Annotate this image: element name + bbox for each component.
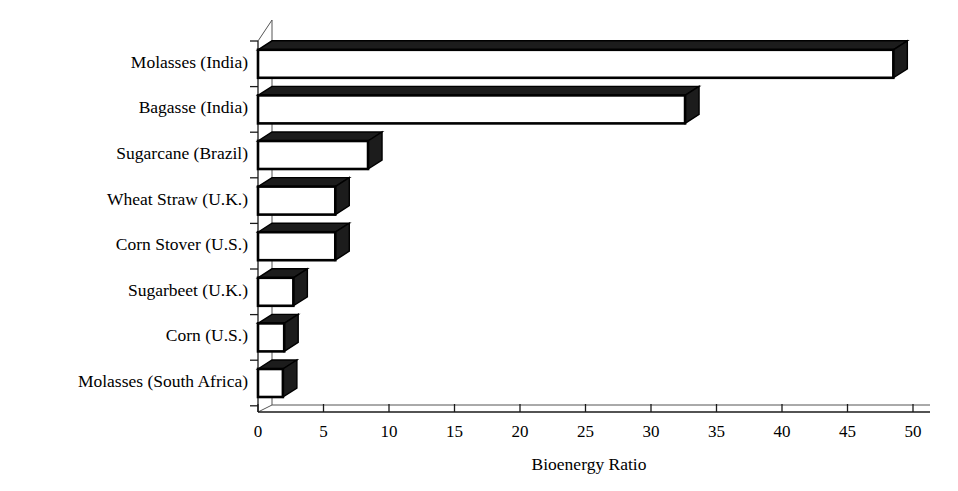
y-axis-category-label: Corn (U.S.) xyxy=(166,325,248,345)
x-axis-tick-label: 5 xyxy=(319,422,328,441)
x-axis-title: Bioenergy Ratio xyxy=(532,454,647,474)
bar-front-face xyxy=(258,141,368,169)
bar xyxy=(258,223,349,260)
y-axis-category-label: Wheat Straw (U.K.) xyxy=(107,189,248,209)
x-axis-tick-label: 35 xyxy=(708,422,725,441)
axis-depth-connector-top xyxy=(258,20,272,41)
chart-canvas: Molasses (India)Bagasse (India)Sugarcane… xyxy=(0,0,958,491)
bar-series xyxy=(258,41,907,397)
bar-top-face xyxy=(258,178,349,187)
bar-top-face xyxy=(258,223,349,232)
bar-front-face xyxy=(258,187,335,215)
y-axis-category-label: Sugarbeet (U.K.) xyxy=(128,280,248,300)
y-axis-category-labels: Molasses (India)Bagasse (India)Sugarcane… xyxy=(78,52,248,391)
x-axis-tick-label: 30 xyxy=(643,422,660,441)
y-axis-category-label: Corn Stover (U.S.) xyxy=(116,234,248,254)
bar xyxy=(258,178,349,215)
bar-front-face xyxy=(258,50,893,78)
x-axis-tick-label: 50 xyxy=(905,422,922,441)
x-axis-tick-label: 10 xyxy=(381,422,398,441)
x-axis-tick-label: 20 xyxy=(512,422,529,441)
bioenergy-ratio-bar-chart: Molasses (India)Bagasse (India)Sugarcane… xyxy=(0,0,958,491)
x-axis-tick-label: 45 xyxy=(839,422,856,441)
bar xyxy=(258,314,298,351)
bar xyxy=(258,360,297,397)
bar-front-face xyxy=(258,95,685,123)
bar xyxy=(258,269,307,306)
bar-top-face xyxy=(258,86,699,95)
axis-depth-connector-bottom xyxy=(258,405,272,412)
bar-front-face xyxy=(258,232,335,260)
y-axis-category-label: Sugarcane (Brazil) xyxy=(116,143,248,163)
x-axis-tick-label: 15 xyxy=(446,422,463,441)
bar xyxy=(258,41,907,78)
bar-top-face xyxy=(258,41,907,50)
bar-front-face xyxy=(258,323,284,351)
x-axis-tick-label: 0 xyxy=(254,422,263,441)
bar-top-face xyxy=(258,132,382,141)
y-axis-category-label: Bagasse (India) xyxy=(139,97,249,117)
bar-front-face xyxy=(258,278,293,306)
y-axis-category-label: Molasses (South Africa) xyxy=(78,371,248,391)
bar xyxy=(258,132,382,169)
x-axis-tick-label: 40 xyxy=(774,422,791,441)
x-axis-tick-labels: 05101520253035404550 xyxy=(254,422,922,441)
y-axis-category-label: Molasses (India) xyxy=(131,52,248,72)
bar-front-face xyxy=(258,369,283,397)
bar xyxy=(258,86,699,123)
x-axis-tick-label: 25 xyxy=(577,422,594,441)
